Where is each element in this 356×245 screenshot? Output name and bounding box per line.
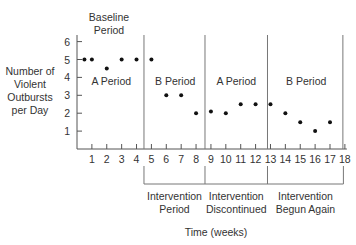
x-tick-label: 16 — [309, 153, 321, 165]
x-tick-label: 15 — [294, 153, 306, 165]
data-point — [254, 102, 258, 106]
x-tick-label: 13 — [265, 153, 277, 165]
data-point — [82, 58, 86, 62]
y-axis-label: Outbursts — [7, 91, 53, 103]
data-point — [105, 66, 109, 70]
chart: 123456123456789101112131415161718 A Peri… — [0, 0, 356, 245]
y-tick-label: 2 — [64, 107, 70, 119]
bracket-label: Intervention — [209, 190, 264, 202]
bracket-label: Intervention — [278, 190, 333, 202]
y-axis-label: per Day — [12, 104, 50, 116]
x-tick-label: 7 — [178, 153, 184, 165]
y-tick-label: 1 — [64, 125, 70, 137]
phase-label: A Period — [91, 75, 131, 87]
data-point — [120, 58, 124, 62]
bracket-label: Intervention — [147, 190, 202, 202]
x-tick-label: 6 — [163, 153, 169, 165]
x-tick-label: 14 — [280, 153, 292, 165]
data-point — [194, 111, 198, 115]
data-point — [90, 58, 94, 62]
data-point — [328, 120, 332, 124]
x-tick-label: 9 — [208, 153, 214, 165]
y-tick-label: 4 — [64, 71, 70, 83]
data-point — [313, 129, 317, 133]
x-tick-label: 11 — [235, 153, 246, 165]
x-axis-label: Time (weeks) — [185, 226, 248, 238]
data-point — [179, 93, 183, 97]
phase-label: A Period — [216, 75, 256, 87]
bracket-label: Period — [159, 203, 190, 215]
y-axis-label: Number of — [5, 65, 54, 77]
y-tick-label: 5 — [64, 54, 70, 66]
data-point — [224, 111, 228, 115]
bracket-label: Begun Again — [276, 203, 336, 215]
y-tick-label: 6 — [64, 36, 70, 48]
x-tick-label: 2 — [104, 153, 110, 165]
y-tick-label: 3 — [64, 89, 70, 101]
phase-label: B Period — [286, 75, 326, 87]
y-axis-label: Violent — [14, 78, 46, 90]
x-tick-label: 18 — [339, 153, 351, 165]
data-points — [82, 58, 332, 134]
bracket-label: Discontinued — [206, 203, 267, 215]
data-point — [268, 102, 272, 106]
data-point — [164, 93, 168, 97]
phase-dividers — [144, 35, 343, 149]
data-point — [283, 111, 287, 115]
data-point — [149, 58, 153, 62]
x-tick-label: 8 — [193, 153, 199, 165]
data-point — [298, 120, 302, 124]
data-point — [135, 58, 139, 62]
x-tick-label: 10 — [220, 153, 232, 165]
x-tick-label: 17 — [324, 153, 336, 165]
x-tick-label: 3 — [119, 153, 125, 165]
bottom-brackets: InterventionPeriodInterventionDiscontinu… — [144, 166, 343, 215]
data-point — [209, 109, 213, 113]
x-tick-label: 1 — [89, 153, 95, 165]
x-tick-label: 12 — [250, 153, 262, 165]
baseline-period-label: Baseline — [89, 11, 129, 23]
baseline-period-label: Period — [94, 24, 125, 36]
data-point — [239, 102, 243, 106]
axes: 123456123456789101112131415161718 — [64, 35, 351, 165]
phase-label: B Period — [155, 75, 195, 87]
x-tick-label: 5 — [148, 153, 154, 165]
x-tick-label: 4 — [134, 153, 140, 165]
